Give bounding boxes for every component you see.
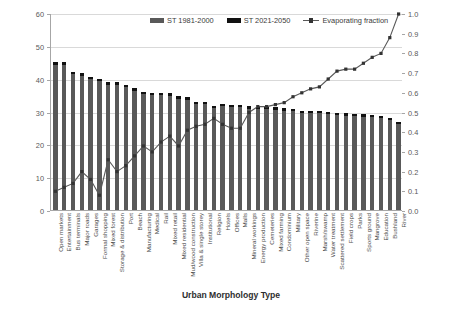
x-tick-label: Hotels [224, 213, 231, 231]
line-data-marker [309, 87, 312, 90]
x-tick-label: Formal shopping [101, 213, 108, 259]
y-tick-label-left: 0 [4, 207, 44, 216]
line-data-marker [327, 77, 330, 80]
line-data-marker [397, 12, 400, 15]
y-tick-label-right: 0.4 [408, 128, 440, 137]
y-tick-label-right: 0.7 [408, 69, 440, 78]
line-data-marker [371, 56, 374, 59]
line-data-marker [379, 52, 382, 55]
line-data-marker [335, 70, 338, 73]
x-tick-label: Rail [162, 213, 169, 224]
x-tick-label: Malls [241, 213, 248, 227]
line-data-marker [98, 194, 101, 197]
x-tick-label: Institutional [206, 213, 213, 244]
line-data-marker [89, 178, 92, 181]
y-tick-label-right: 0.1 [408, 187, 440, 196]
line-data-marker [344, 68, 347, 71]
x-tick-label: Mixed residential [180, 213, 187, 259]
y-tick-label-right: 1.0 [408, 10, 440, 19]
line-data-marker [133, 154, 136, 157]
line-data-marker [71, 182, 74, 185]
line-data-marker [203, 123, 206, 126]
line-data-marker [151, 150, 154, 153]
x-tick-label: Open markets [57, 213, 64, 252]
y-tick-label-left: 50 [4, 43, 44, 52]
line-data-marker [239, 127, 242, 130]
y-tick-label-right: 0.8 [408, 49, 440, 58]
x-tick-label: Villa & single storey [197, 213, 204, 267]
line-path [55, 14, 398, 195]
line-data-marker [265, 105, 268, 108]
line-data-marker [168, 135, 171, 138]
line-data-marker [186, 129, 189, 132]
line-data-marker [212, 117, 215, 120]
line-data-marker [107, 158, 110, 161]
line-data-marker [283, 101, 286, 104]
x-tick-label: Storage & distribution [118, 213, 125, 272]
y-tick-label-left: 20 [4, 141, 44, 150]
line-data-marker [388, 36, 391, 39]
x-tick-label: Religion [215, 213, 222, 235]
x-tick-label: Mixed forest [109, 213, 116, 247]
line-data-marker [221, 123, 224, 126]
line-data-marker [247, 111, 250, 114]
x-tick-label: Water treatment [329, 213, 336, 257]
x-tick-label: Beach [136, 213, 143, 231]
line-data-marker [80, 170, 83, 173]
x-tick-label: Offices [233, 213, 240, 232]
x-tick-label: Mixed retail [171, 213, 178, 245]
line-data-marker [362, 62, 365, 65]
x-tick-label: River [400, 213, 407, 227]
x-tick-label: Mixed farming [277, 213, 284, 252]
y-tick-label-left: 60 [4, 10, 44, 19]
line-data-marker [159, 140, 162, 143]
line-data-marker [256, 105, 259, 108]
x-tick-label: Major roads [83, 213, 90, 246]
y-tick-label-left: 30 [4, 109, 44, 118]
line-data-marker [124, 164, 127, 167]
x-tick-label: Mud/wood construction [189, 213, 196, 277]
x-tick-label: Education [382, 213, 389, 241]
y-tick-label-right: 0.9 [408, 30, 440, 39]
x-tick-label: Cemeteries [268, 213, 275, 245]
x-tick-label: Military [294, 213, 301, 233]
x-tick-label: Condominium [285, 213, 292, 251]
x-axis-title: Urban Morphology Type [0, 290, 462, 300]
y-tick-label-right: 0.0 [408, 207, 440, 216]
y-tick-mark-right [402, 211, 405, 212]
line-data-marker [195, 125, 198, 128]
line-data-marker [54, 190, 57, 193]
y-tick-label-left: 10 [4, 174, 44, 183]
x-tick-label: Field crops [347, 213, 354, 243]
evaporating-fraction-line [51, 14, 403, 211]
line-data-marker [230, 127, 233, 130]
line-data-marker [291, 95, 294, 98]
line-data-marker [300, 91, 303, 94]
x-tick-label: Mangrove [373, 213, 380, 241]
line-data-marker [353, 68, 356, 71]
surface-temperature-chart: Maximum surface temperature [°C] Evapora… [0, 0, 462, 312]
line-data-marker [318, 85, 321, 88]
line-data-marker [274, 103, 277, 106]
line-data-marker [63, 186, 66, 189]
x-tick-label: Scattered settlement [338, 213, 345, 270]
x-tick-label: Manufacturing [145, 213, 152, 252]
x-tick-label: Mineral workings [250, 213, 257, 259]
x-axis-category-labels: Open marketsEntertainmentBus terminalsMa… [50, 213, 402, 291]
x-tick-label: Bushland [391, 213, 398, 239]
y-tick-label-right: 0.5 [408, 109, 440, 118]
x-tick-label: Other open space [303, 213, 310, 262]
x-tick-label: Sports ground [365, 213, 372, 252]
x-tick-label: Parks [356, 213, 363, 229]
x-tick-label: Medical [153, 213, 160, 234]
x-tick-label: Entertainment [65, 213, 72, 252]
x-tick-label: Garages [92, 213, 99, 237]
x-tick-label: Port [127, 213, 134, 224]
x-tick-label: Bus terminals [74, 213, 81, 250]
plot-area [50, 14, 402, 211]
y-tick-label-right: 0.2 [408, 168, 440, 177]
line-data-marker [142, 144, 145, 147]
y-tick-label-left: 40 [4, 76, 44, 85]
y-tick-mark-left [47, 211, 50, 212]
y-tick-label-right: 0.3 [408, 148, 440, 157]
